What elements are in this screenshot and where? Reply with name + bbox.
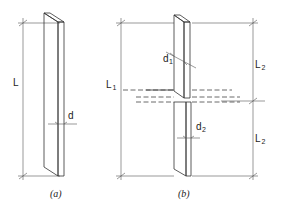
- plate-b-lower: [174, 102, 191, 176]
- plate-b-upper: [174, 15, 190, 98]
- figure-a: L d (a): [13, 13, 77, 200]
- label-L2-upper: L2: [255, 59, 266, 71]
- caption-b: (b): [178, 188, 190, 200]
- caption-a: (a): [50, 188, 62, 200]
- label-d: d: [68, 110, 74, 121]
- diagram-canvas: L d (a): [0, 0, 281, 207]
- label-L: L: [13, 77, 19, 88]
- label-L1: L1: [106, 79, 117, 91]
- label-L2-lower: L2: [255, 133, 266, 145]
- label-d2: d2: [196, 121, 206, 133]
- figure-b: L1 L2 L2 d1 d2 (b): [106, 15, 266, 200]
- plate-a: [44, 13, 64, 176]
